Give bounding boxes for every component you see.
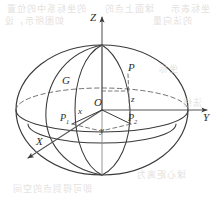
segment-o-p2 — [102, 110, 131, 124]
meridian-g — [46, 45, 102, 175]
y-component-label: y — [100, 126, 104, 135]
origin-label: O — [94, 97, 102, 108]
point-p-label: P — [128, 62, 135, 73]
z-component-label: z — [131, 95, 135, 104]
point-p2-label: P2 — [128, 113, 137, 125]
z-axis-label: Z — [90, 12, 96, 23]
segment-o-p1 — [72, 110, 102, 124]
point-p1-label: P1 — [60, 113, 69, 125]
y-axis-label: Y — [203, 112, 209, 123]
x-axis-label: X — [36, 136, 43, 147]
point-p1-subscript: 1 — [66, 118, 69, 125]
sphere-coordinate-diagram — [0, 0, 219, 197]
point-p2-subscript: 2 — [134, 118, 137, 125]
point-g-label: G — [62, 75, 70, 86]
x-component-label: x — [78, 107, 82, 116]
